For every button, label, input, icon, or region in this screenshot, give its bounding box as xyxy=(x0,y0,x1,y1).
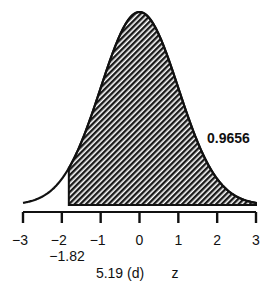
shaded-area-value-label: 0.9656 xyxy=(207,130,250,146)
x-tick-label: 1 xyxy=(174,232,182,248)
x-tick-label: 0 xyxy=(136,232,144,248)
x-tick-label: −2 xyxy=(51,232,67,248)
x-axis-label: z xyxy=(172,265,179,281)
x-tick-label: 2 xyxy=(213,232,221,248)
cutoff-value-label: −1.82 xyxy=(49,248,85,264)
x-tick-label: −3 xyxy=(12,232,28,248)
x-tick-label: −1 xyxy=(90,232,106,248)
x-tick-label: 3 xyxy=(252,232,260,248)
normal-curve-chart: 0.9656 −1.82 5.19 (d) z −3−2−10123 xyxy=(0,0,277,289)
figure-caption: 5.19 (d) xyxy=(96,265,144,281)
